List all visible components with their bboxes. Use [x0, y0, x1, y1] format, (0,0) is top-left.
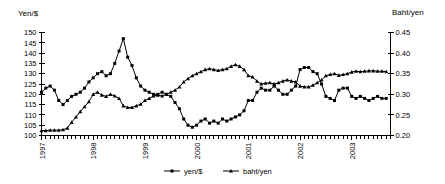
data-point-marker [95, 90, 99, 94]
legend: yen/$baht/yen [164, 167, 272, 176]
x-axis-year-label: 2000 [193, 143, 202, 160]
data-point-marker [147, 96, 151, 100]
data-point-marker [79, 91, 82, 94]
data-point-marker [122, 37, 125, 40]
data-point-marker [139, 85, 142, 88]
right-axis-tick-label: 0.20 [396, 131, 411, 140]
left-axis-tick-label: 105 [24, 121, 37, 130]
right-axis-tick-label: 0.45 [396, 28, 411, 37]
data-point-marker [324, 95, 327, 98]
data-point-marker [195, 124, 198, 127]
right-axis-tick-label: 0.40 [396, 49, 411, 58]
data-point-marker [290, 89, 293, 92]
data-point-marker [143, 89, 146, 92]
data-point-marker [311, 70, 314, 73]
data-point-marker [62, 103, 65, 106]
data-point-marker [92, 76, 95, 79]
left-axis-tick-label: 110 [25, 111, 37, 120]
series-layer [40, 37, 389, 132]
data-point-marker [342, 87, 345, 90]
data-point-marker [204, 118, 207, 121]
data-point-marker [178, 107, 181, 110]
data-point-marker [182, 118, 185, 121]
data-point-marker [277, 89, 280, 92]
data-point-marker [44, 87, 47, 90]
right-axis: 0.200.250.300.350.400.45 [388, 28, 411, 140]
data-point-marker [49, 85, 52, 88]
data-point-marker [117, 96, 121, 100]
legend-label: yen/$ [184, 167, 203, 176]
data-point-marker [359, 95, 362, 98]
left-axis-tick-label: 135 [24, 59, 37, 68]
data-point-marker [87, 80, 90, 83]
data-point-marker [286, 93, 289, 96]
data-point-marker [57, 99, 60, 102]
data-point-marker [126, 56, 129, 59]
left-axis-tick-label: 100 [24, 131, 37, 140]
x-axis-year-label: 1998 [89, 143, 98, 160]
data-point-marker [70, 95, 73, 98]
series-path [42, 39, 387, 128]
data-point-marker [108, 92, 112, 96]
data-point-marker [247, 99, 250, 102]
data-point-marker [320, 83, 323, 86]
data-point-marker [299, 68, 302, 71]
data-point-marker [337, 89, 340, 92]
data-point-marker [234, 115, 237, 118]
data-point-marker [243, 109, 246, 112]
data-point-marker [217, 122, 220, 125]
data-point-marker [96, 72, 99, 75]
data-point-marker [208, 122, 211, 125]
data-point-marker [148, 91, 151, 94]
data-point-marker [385, 97, 388, 100]
data-point-marker [221, 118, 224, 121]
data-point-marker [53, 89, 56, 92]
left-axis-tick-label: 150 [24, 28, 37, 37]
left-axis-tick-label: 115 [25, 100, 37, 109]
data-point-marker [372, 97, 375, 100]
right-axis-tick-label: 0.35 [396, 69, 411, 78]
data-point-marker [212, 120, 215, 123]
data-point-marker [113, 62, 116, 65]
data-point-marker [191, 126, 194, 129]
right-axis-tick-label: 0.30 [396, 90, 411, 99]
data-point-marker [307, 66, 310, 69]
x-axis: 1997199819992000200120022003 [38, 136, 391, 160]
data-point-marker [311, 83, 315, 87]
data-point-marker [130, 64, 133, 67]
data-point-marker [367, 99, 370, 102]
data-point-marker [40, 91, 43, 94]
data-point-marker [230, 118, 233, 121]
data-point-marker [109, 72, 112, 75]
data-point-marker [264, 89, 267, 92]
data-point-marker [74, 93, 77, 96]
data-point-marker [251, 99, 254, 102]
left-axis-tick-label: 140 [24, 49, 37, 58]
data-point-marker [238, 113, 241, 116]
left-axis-tick-label: 120 [24, 90, 37, 99]
data-point-marker [316, 72, 319, 75]
data-point-marker [294, 85, 297, 88]
data-point-marker [233, 63, 237, 67]
left-axis-tick-label: 125 [24, 80, 37, 89]
data-point-marker [281, 93, 284, 96]
data-point-marker [83, 87, 86, 90]
right-axis-tick-label: 0.25 [396, 111, 411, 120]
data-point-marker [350, 95, 353, 98]
x-axis-year-label: 2002 [296, 143, 305, 160]
x-axis-year-label: 1997 [38, 143, 47, 160]
plot-area: 100105110115120125130135140145150 0.200.… [0, 0, 445, 184]
data-point-marker [329, 97, 332, 100]
data-point-marker [174, 101, 177, 104]
data-point-marker [169, 95, 172, 98]
x-axis-year-label: 2001 [244, 143, 253, 160]
x-axis-year-label: 2003 [348, 143, 357, 160]
legend-label: baht/yen [243, 167, 272, 176]
data-point-marker [118, 50, 121, 53]
exchange-rate-chart: Yen/$ Baht/yen 1001051101151201251301351… [0, 0, 445, 184]
data-point-marker [105, 74, 108, 77]
legend-item: yen/$ [164, 167, 203, 176]
data-point-marker [333, 99, 336, 102]
left-axis-tick-label: 145 [24, 39, 37, 48]
left-axis-tick-label: 130 [24, 69, 37, 78]
